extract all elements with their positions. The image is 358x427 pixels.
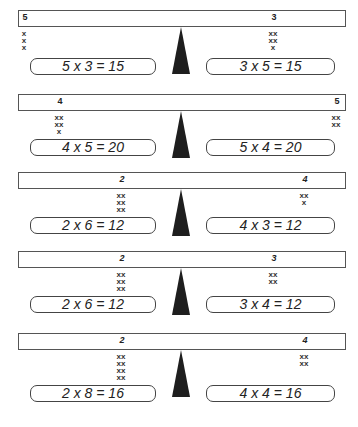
left-equation-box: 2 x 6 = 12 — [30, 296, 156, 313]
right-group-count-marks: xxxx — [300, 353, 309, 367]
balance-beam: 45 — [18, 94, 346, 111]
balance-panel: 53xxx5 x 3 = 15xxxxx3 x 5 = 15 — [0, 10, 358, 90]
fulcrum-triangle-icon — [172, 350, 190, 397]
left-group-count-marks: xxxxxx — [117, 271, 126, 292]
left-equation-box: 5 x 3 = 15 — [30, 58, 156, 75]
x-mark-row: xx — [117, 374, 126, 381]
right-equation-box: 3 x 5 = 15 — [206, 58, 335, 75]
x-mark-row: x — [269, 44, 278, 51]
left-group-size-label: 2 — [119, 253, 124, 263]
x-mark-row: xx — [117, 206, 126, 213]
right-group-count-marks: xxx — [300, 192, 309, 206]
left-equation-box: 2 x 8 = 16 — [30, 385, 156, 402]
right-group-count-marks: xxxx — [332, 114, 341, 128]
right-group-size-label: 4 — [302, 335, 307, 345]
balance-beam: 53 — [18, 10, 346, 27]
fulcrum-triangle-icon — [172, 111, 190, 158]
left-group-count-marks: xxxxx — [55, 114, 64, 135]
left-group-count-marks: xxxxxx — [117, 192, 126, 213]
left-group-size-label: 5 — [22, 12, 27, 22]
right-equation-box: 4 x 4 = 16 — [206, 385, 335, 402]
fulcrum-triangle-icon — [172, 268, 190, 315]
x-mark-row: xx — [269, 278, 278, 285]
x-mark-row: x — [300, 199, 309, 206]
left-group-size-label: 2 — [119, 174, 124, 184]
right-group-size-label: 5 — [334, 96, 339, 106]
right-equation-box: 4 x 3 = 12 — [206, 217, 335, 234]
balance-panel: 24xxxxxx2 x 6 = 12xxx4 x 3 = 12 — [0, 172, 358, 252]
right-group-count-marks: xxxxx — [269, 30, 278, 51]
right-group-count-marks: xxxx — [269, 271, 278, 285]
balance-beam: 24 — [18, 333, 346, 350]
left-equation-box: 4 x 5 = 20 — [30, 139, 156, 156]
x-mark-row: xx — [117, 285, 126, 292]
left-group-size-label: 4 — [57, 96, 62, 106]
balance-beam: 23 — [18, 251, 346, 268]
x-mark-row: x — [22, 44, 26, 51]
left-group-count-marks: xxxxxxxx — [117, 353, 126, 381]
x-mark-row: xx — [332, 121, 341, 128]
balance-beam: 24 — [18, 172, 346, 189]
x-mark-row: xx — [300, 360, 309, 367]
balance-panel: 45xxxxx4 x 5 = 20xxxx5 x 4 = 20 — [0, 94, 358, 174]
right-equation-box: 5 x 4 = 20 — [206, 139, 335, 156]
left-group-size-label: 2 — [119, 335, 124, 345]
right-group-size-label: 3 — [271, 253, 276, 263]
fulcrum-triangle-icon — [172, 189, 190, 236]
right-equation-box: 3 x 4 = 12 — [206, 296, 335, 313]
fulcrum-triangle-icon — [172, 27, 190, 74]
right-group-size-label: 4 — [302, 174, 307, 184]
right-group-size-label: 3 — [271, 12, 276, 22]
x-mark-row: x — [55, 128, 64, 135]
balance-panel: 24xxxxxxxx2 x 8 = 16xxxx4 x 4 = 16 — [0, 333, 358, 413]
left-group-count-marks: xxx — [22, 30, 26, 51]
balance-panel: 23xxxxxx2 x 6 = 12xxxx3 x 4 = 12 — [0, 251, 358, 331]
left-equation-box: 2 x 6 = 12 — [30, 217, 156, 234]
